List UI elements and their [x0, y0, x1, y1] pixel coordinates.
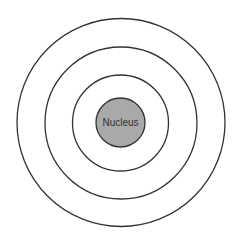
- nucleus-label: Nucleus: [102, 117, 138, 128]
- atom-diagram: Nucleus: [0, 0, 238, 241]
